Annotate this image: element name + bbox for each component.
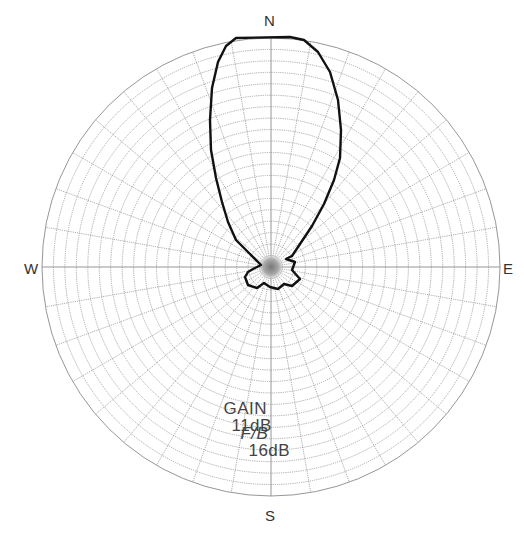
- compass-east-label: E: [503, 261, 513, 276]
- compass-north-label: N: [264, 13, 275, 28]
- radiation-pattern-curve: [210, 37, 341, 289]
- front-back-stat: F/B 16dB: [230, 408, 290, 459]
- front-back-value: 16dB: [248, 441, 290, 460]
- compass-south-label: S: [265, 508, 275, 523]
- compass-west-label: W: [24, 261, 38, 276]
- center-hub: [258, 254, 284, 280]
